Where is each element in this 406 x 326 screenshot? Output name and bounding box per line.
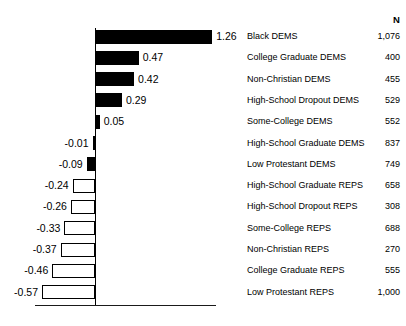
n-count-value: 837 — [385, 137, 400, 150]
table-row: High-School Dropout REPS308 — [0, 198, 406, 216]
category-label: College Graduate REPS — [247, 264, 345, 277]
table-row: High-School Graduate REPS658 — [0, 177, 406, 195]
category-label: High-School Dropout REPS — [247, 200, 358, 213]
table-row: Low Protestant DEMS749 — [0, 156, 406, 174]
table-row: Non-Christian REPS270 — [0, 241, 406, 259]
category-label: Non-Christian DEMS — [247, 73, 331, 86]
table-row: Black DEMS1,076 — [0, 28, 406, 46]
table-row: High-School Dropout DEMS529 — [0, 92, 406, 110]
n-count-value: 555 — [385, 264, 400, 277]
table-row: Some-College DEMS552 — [0, 113, 406, 131]
table-row: College Graduate REPS555 — [0, 262, 406, 280]
n-count-value: 1,076 — [377, 30, 400, 43]
table-row: High-School Graduate DEMS837 — [0, 135, 406, 153]
n-count-value: 529 — [385, 94, 400, 107]
n-count-value: 400 — [385, 51, 400, 64]
n-count-value: 308 — [385, 200, 400, 213]
category-label: High-School Dropout DEMS — [247, 94, 359, 107]
n-count-value: 552 — [385, 115, 400, 128]
category-label: Some-College DEMS — [247, 115, 333, 128]
category-label: Low Protestant DEMS — [247, 158, 336, 171]
chart-title-fragment — [0, 0, 406, 1]
n-count-value: 1,000 — [377, 286, 400, 299]
n-column-header: N — [330, 14, 400, 25]
n-count-value: 688 — [385, 222, 400, 235]
table-row: Some-College REPS688 — [0, 220, 406, 238]
n-count-value: 455 — [385, 73, 400, 86]
category-label: High-School Graduate REPS — [247, 179, 363, 192]
n-count-value: 270 — [385, 243, 400, 256]
category-label: Non-Christian REPS — [247, 243, 329, 256]
table-row: College Graduate DEMS400 — [0, 49, 406, 67]
diverging-bar-chart: N 1.260.470.420.290.05-0.01-0.09-0.24-0.… — [0, 0, 406, 326]
n-count-value: 749 — [385, 158, 400, 171]
n-count-value: 658 — [385, 179, 400, 192]
category-label: Some-College REPS — [247, 222, 331, 235]
category-label: High-School Graduate DEMS — [247, 137, 365, 150]
table-row: Non-Christian DEMS455 — [0, 71, 406, 89]
category-table: Black DEMS1,076College Graduate DEMS400N… — [0, 28, 406, 310]
category-label: College Graduate DEMS — [247, 51, 346, 64]
category-label: Low Protestant REPS — [247, 286, 334, 299]
category-label: Black DEMS — [247, 30, 298, 43]
table-row: Low Protestant REPS1,000 — [0, 284, 406, 302]
